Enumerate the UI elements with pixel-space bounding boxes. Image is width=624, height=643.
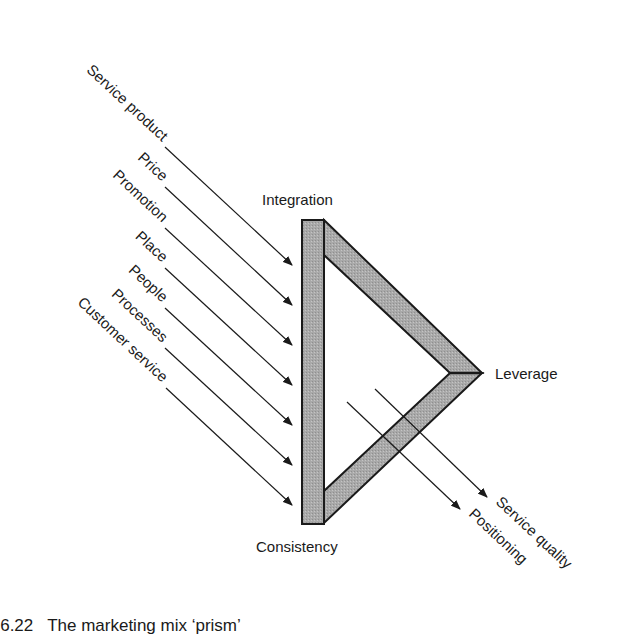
prism-upper-edge [324,220,482,373]
input-labels: Service product Price Promotion Place Pe… [75,61,173,386]
arrow-place [165,268,292,385]
prism [302,220,482,524]
label-price: Price [135,148,172,184]
label-integration: Integration [262,191,333,208]
arrow-customer-service [166,388,292,505]
label-leverage: Leverage [495,365,558,382]
prism-lower-edge [324,373,482,523]
prism-vertical-edge [302,220,324,524]
label-consistency: Consistency [256,538,338,555]
arrow-people [165,308,292,425]
label-service-product: Service product [84,61,172,145]
figure-caption: e 6.22 The marketing mix ‘prism’ [0,616,241,636]
prism-diagram: Service product Price Promotion Place Pe… [0,0,624,643]
label-place: Place [133,227,172,265]
arrow-processes [165,348,292,465]
